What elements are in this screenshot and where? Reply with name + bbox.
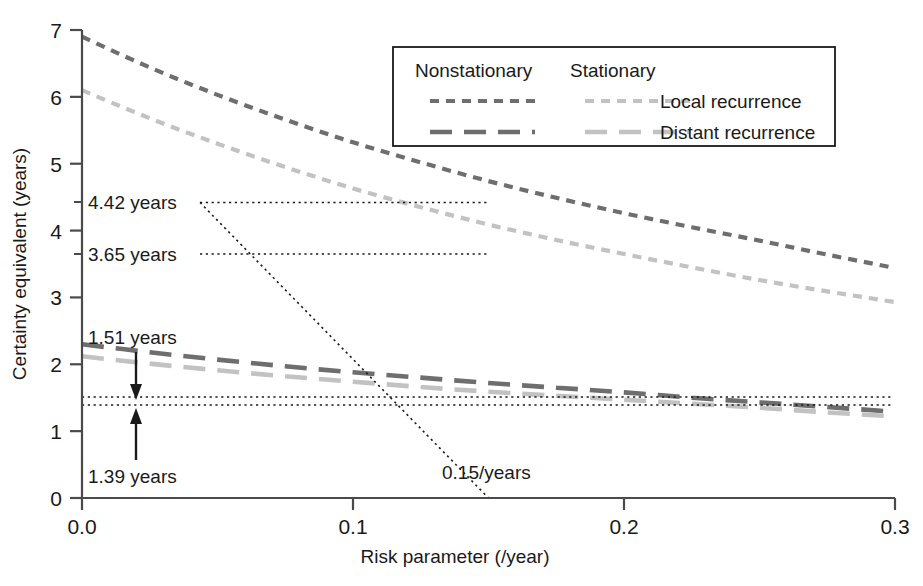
y-tick-label-7: 7 xyxy=(50,19,62,42)
legend-header-stationary: Stationary xyxy=(570,60,656,81)
y-tick-label-4: 4 xyxy=(50,220,62,243)
annotation-442-label: 4.42 years xyxy=(88,192,177,213)
chart-legend: Nonstationary Stationary Local recurrenc… xyxy=(393,47,835,146)
annotation-365-label: 3.65 years xyxy=(88,244,177,265)
y-tick-label-5: 5 xyxy=(50,153,62,176)
y-tick-label-2: 2 xyxy=(50,353,62,376)
x-tick-label-0-2: 0.2 xyxy=(609,515,638,538)
legend-header-nonstationary: Nonstationary xyxy=(415,60,533,81)
y-tick-label-6: 6 xyxy=(50,86,62,109)
annotation-139-label: 1.39 years xyxy=(88,466,177,487)
y-tick-label-0: 0 xyxy=(50,487,62,510)
legend-label-local-recurrence: Local recurrence xyxy=(660,91,802,112)
annotation-151-label: 1.51 years xyxy=(88,327,177,348)
legend-label-distant-recurrence: Distant recurrence xyxy=(660,122,815,143)
y-axis-title: Certainty equivalent (years) xyxy=(9,148,30,380)
y-tick-label-3: 3 xyxy=(50,286,62,309)
chart-figure: 01234567 0.00.10.20.3 Risk parameter (/y… xyxy=(0,0,923,586)
annotation-015-label: 0.15/years xyxy=(442,462,531,483)
y-tick-label-1: 1 xyxy=(50,420,62,443)
x-tick-label-0: 0.0 xyxy=(67,515,96,538)
x-tick-label-0-3: 0.3 xyxy=(880,515,909,538)
certainty-equivalent-line-chart: 01234567 0.00.10.20.3 Risk parameter (/y… xyxy=(0,0,923,586)
x-tick-label-0-1: 0.1 xyxy=(338,515,367,538)
x-axis-title: Risk parameter (/year) xyxy=(361,546,550,567)
